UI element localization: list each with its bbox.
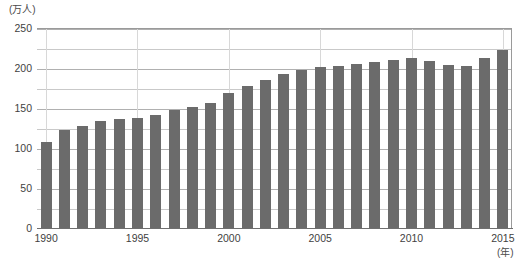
- y-axis-tick-labels: 050100150200250: [0, 28, 525, 228]
- x-tick-label-1990: 1990: [34, 232, 57, 244]
- x-tick-label-2005: 2005: [308, 232, 331, 244]
- bar-chart: (万人) 050100150200250 1990199520002005201…: [0, 0, 525, 266]
- x-tick-label-2015: 2015: [491, 232, 514, 244]
- x-axis-unit-label: (年): [497, 247, 514, 258]
- y-tick-label-150: 150: [3, 103, 32, 113]
- y-tick-label-50: 50: [3, 183, 32, 193]
- x-tick-label-1995: 1995: [126, 232, 149, 244]
- y-tick-label-200: 200: [3, 63, 32, 73]
- y-axis-unit-label: (万人): [9, 4, 36, 16]
- x-axis-tick-labels: 199019952000200520102015: [0, 232, 525, 250]
- x-tick-label-2000: 2000: [217, 232, 240, 244]
- x-tick-label-2010: 2010: [400, 232, 423, 244]
- y-tick-label-100: 100: [3, 143, 32, 153]
- x-axis-line: [37, 228, 513, 229]
- y-tick-label-250: 250: [3, 23, 32, 33]
